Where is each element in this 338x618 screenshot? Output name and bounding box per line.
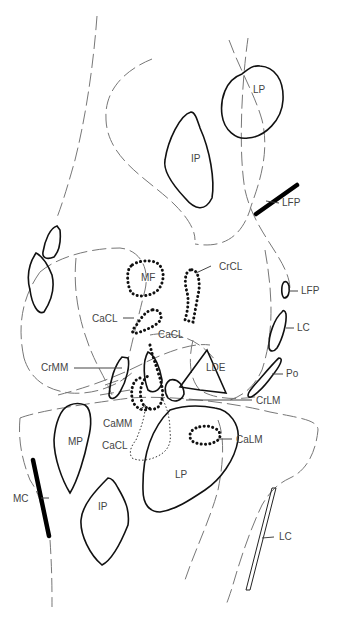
lc-mid-area bbox=[269, 311, 286, 351]
label-cacl-lower: CaCL bbox=[102, 441, 128, 451]
dotted-attachments bbox=[128, 261, 220, 460]
lp-top-area bbox=[222, 66, 283, 138]
label-lfp-mid: LFP bbox=[301, 286, 319, 296]
label-lfp-top: LFP bbox=[282, 198, 300, 208]
leader-crcl bbox=[196, 266, 211, 273]
diamond-left-area bbox=[28, 253, 53, 313]
medial-condyle-outer bbox=[21, 272, 40, 358]
label-mf: MF bbox=[141, 273, 155, 283]
label-calm: CaLM bbox=[236, 435, 263, 445]
leader-lines bbox=[41, 201, 298, 538]
label-lc-mid: LC bbox=[297, 323, 310, 333]
diagram-drawing bbox=[0, 0, 338, 618]
trochlea-contour bbox=[106, 59, 195, 240]
label-mc: MC bbox=[13, 494, 29, 504]
label-po: Po bbox=[286, 369, 298, 379]
label-lde: LDE bbox=[206, 363, 225, 373]
ip-bottom-area bbox=[81, 478, 129, 565]
lp-bottom-area bbox=[143, 406, 238, 512]
joint-diagram: LP IP LFP MF CrCL CaCL CaCL LFP LC CrMM … bbox=[0, 0, 338, 618]
bone-contours bbox=[19, 16, 318, 607]
lateral-condyle-outer bbox=[230, 250, 271, 400]
label-mp: MP bbox=[68, 437, 83, 447]
label-lc-bottom: LC bbox=[279, 532, 292, 542]
label-ip-top: IP bbox=[191, 154, 200, 164]
mp-area bbox=[54, 404, 91, 494]
small-upper-left-area bbox=[43, 226, 60, 258]
lc-bottom-ligament bbox=[246, 488, 276, 590]
label-lp-top: LP bbox=[253, 85, 265, 95]
label-camm: CaMM bbox=[103, 419, 132, 429]
tibia-medial-lower bbox=[50, 540, 52, 607]
tibia-lateral-contour bbox=[20, 397, 318, 606]
label-lp-bottom: LP bbox=[175, 470, 187, 480]
label-crlm: CrLM bbox=[256, 396, 280, 406]
crcl-dotted bbox=[185, 270, 199, 322]
po-band bbox=[248, 358, 281, 397]
cacl-mid-dotted bbox=[140, 345, 162, 409]
ip-top-area bbox=[165, 112, 213, 208]
intercondylar-contour bbox=[75, 258, 112, 395]
label-crmm: CrMM bbox=[41, 363, 68, 373]
attachment-areas bbox=[28, 66, 289, 565]
label-cacl-mid: CaCL bbox=[158, 330, 184, 340]
label-ip-bottom: IP bbox=[98, 502, 107, 512]
femur-left-contour bbox=[56, 16, 97, 220]
calm-dotted bbox=[190, 426, 220, 444]
lfp-mid-area bbox=[282, 282, 290, 298]
label-crcl: CrCL bbox=[219, 262, 242, 272]
label-cacl-left: CaCL bbox=[92, 314, 118, 324]
